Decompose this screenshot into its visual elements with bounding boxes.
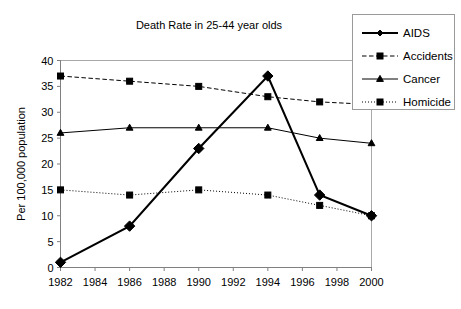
y-tick-label: 15 (41, 184, 53, 196)
y-tick-label: 40 (41, 55, 53, 67)
y-tick-label: 25 (41, 132, 53, 144)
data-point-marker (126, 124, 133, 130)
series-line (61, 190, 372, 216)
x-tick-label: 1982 (48, 276, 72, 288)
series-line (61, 76, 372, 262)
y-tick-label: 35 (41, 80, 53, 92)
plot-frame (60, 61, 372, 268)
series-aids (55, 71, 376, 268)
chart-legend[interactable]: AIDSAccidentsCancerHomicide (353, 15, 455, 110)
legend-label: Cancer (403, 73, 440, 85)
data-point-marker (314, 190, 324, 200)
data-point-marker (127, 192, 133, 198)
legend-label: Homicide (403, 96, 451, 108)
data-series-layer (55, 71, 376, 268)
series-homicide (58, 187, 375, 219)
series-cancer (57, 124, 375, 146)
series-line (61, 76, 372, 104)
legend-label: Accidents (403, 50, 453, 62)
data-point-marker (366, 211, 376, 221)
x-axis-ticks: 1982198419861988199019921994199619982000 (48, 268, 383, 288)
y-axis-title: Per 100,000 population (15, 107, 27, 221)
data-point-marker (58, 187, 64, 193)
data-point-marker (265, 94, 271, 100)
data-point-marker (58, 73, 64, 79)
legend-label: AIDS (403, 27, 430, 39)
y-tick-label: 20 (41, 158, 53, 170)
y-tick-label: 0 (47, 262, 53, 274)
x-tick-label: 1998 (325, 276, 349, 288)
y-axis-ticks: 0510152025303540 (41, 55, 60, 274)
data-point-marker (265, 192, 271, 198)
plot-axes (60, 60, 372, 268)
data-point-marker (195, 124, 202, 130)
y-tick-label: 5 (47, 236, 53, 248)
data-point-marker (127, 78, 133, 84)
data-point-marker (196, 187, 202, 193)
x-tick-label: 1994 (256, 276, 280, 288)
x-tick-label: 1990 (186, 276, 210, 288)
x-tick-label: 1984 (83, 276, 107, 288)
data-point-marker (317, 202, 323, 208)
y-tick-label: 30 (41, 106, 53, 118)
data-point-marker (377, 53, 383, 59)
x-tick-label: 1988 (152, 276, 176, 288)
chart-container: Death Rate in 25-44 year olds Per 100,00… (0, 0, 461, 309)
chart-title: Death Rate in 25-44 year olds (136, 19, 283, 31)
data-point-marker (55, 257, 65, 267)
x-tick-label: 1992 (221, 276, 245, 288)
x-tick-label: 1996 (290, 276, 314, 288)
y-tick-label: 10 (41, 210, 53, 222)
data-point-marker (377, 99, 383, 105)
x-tick-label: 2000 (359, 276, 383, 288)
series-accidents (58, 73, 375, 107)
data-point-marker (196, 83, 202, 89)
data-point-marker (264, 124, 271, 130)
x-tick-label: 1986 (117, 276, 141, 288)
data-point-marker (317, 99, 323, 105)
